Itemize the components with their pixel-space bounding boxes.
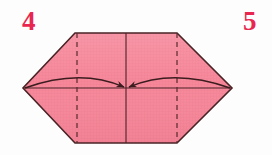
- origami-diagram-svg: [0, 0, 272, 155]
- step-number-right: 5: [243, 8, 257, 35]
- step-number-left: 4: [22, 8, 36, 35]
- origami-figure: 4 5: [0, 0, 272, 155]
